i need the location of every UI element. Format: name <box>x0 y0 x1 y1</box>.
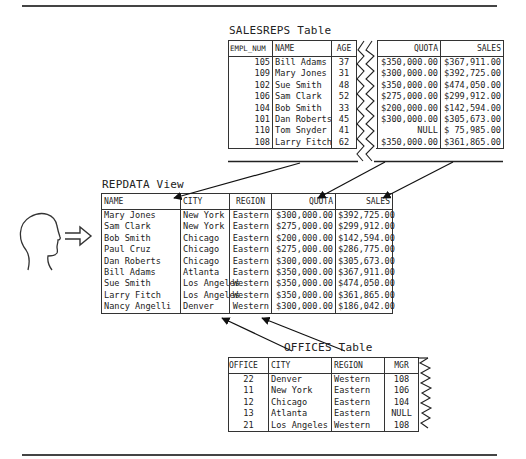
city-cell: Los Angeles <box>181 278 230 289</box>
quota-cell: $350,000.00 <box>378 57 441 69</box>
double-line-arrow-icon <box>65 227 91 245</box>
sales-cell: $392,725.00 <box>441 68 504 79</box>
table-row: 102Sue Smith48$350,000.00$474,050.00 <box>229 80 504 91</box>
office-cell: 12 <box>229 397 269 408</box>
sales-cell: $ 75,985.00 <box>441 125 504 136</box>
name-cell: Tom Snyder <box>273 125 332 136</box>
sales-cell: $286,775.00 <box>336 244 393 255</box>
age-cell: 52 <box>332 91 357 102</box>
region-cell: Eastern <box>230 256 272 267</box>
offices-title: OFFICES Table <box>284 341 373 354</box>
region-cell: Eastern <box>230 267 272 278</box>
quota-cell: $275,000.00 <box>272 244 336 255</box>
mgr-cell: 108 <box>385 420 419 432</box>
city-cell: Chicago <box>181 233 230 244</box>
age-cell: 37 <box>332 57 357 69</box>
city-cell: Chicago <box>181 256 230 267</box>
city-cell: Atlanta <box>269 408 332 419</box>
mgr-cell: 104 <box>385 397 419 408</box>
region-cell: Western <box>332 374 385 386</box>
empl-num-cell: 110 <box>229 125 273 136</box>
empl-num-cell: 102 <box>229 80 273 91</box>
region-cell: Eastern <box>230 210 272 222</box>
table-row: 108Larry Fitch62$350,000.00$361,865.00 <box>229 137 504 149</box>
column-header-sales: SALES <box>336 194 393 210</box>
city-cell: Los Angeles <box>181 290 230 301</box>
quota-cell: $350,000.00 <box>378 137 441 149</box>
column-header-mgr: MGR <box>385 358 419 374</box>
quota-cell: $300,000.00 <box>272 301 336 313</box>
quota-cell: $275,000.00 <box>378 91 441 102</box>
empl-num-cell: 101 <box>229 114 273 125</box>
region-cell: Eastern <box>332 408 385 419</box>
offices-header-row: OFFICE CITY REGION MGR <box>229 358 419 374</box>
column-break <box>357 114 378 125</box>
table-row: 106Sam Clark52$275,000.00$299,912.00 <box>229 91 504 102</box>
quota-cell: $300,000.00 <box>272 210 336 222</box>
person-head-icon <box>20 214 60 270</box>
city-cell: Chicago <box>269 397 332 408</box>
quota-cell: $350,000.00 <box>272 278 336 289</box>
column-break <box>357 125 378 136</box>
name-cell: Mary Jones <box>102 210 181 222</box>
name-cell: Dan Roberts <box>273 114 332 125</box>
column-header-name: NAME <box>102 194 181 210</box>
repdata-header-row: NAME CITY REGION QUOTA SALES <box>102 194 393 210</box>
sales-cell: $361,865.00 <box>441 137 504 149</box>
city-cell: Los Angeles <box>269 420 332 432</box>
name-cell: Paul Cruz <box>102 244 181 255</box>
table-row: Bill AdamsAtlantaEastern$350,000.00$367,… <box>102 267 393 278</box>
name-cell: Sue Smith <box>102 278 181 289</box>
mgr-cell: NULL <box>385 408 419 419</box>
empl-num-cell: 105 <box>229 57 273 69</box>
age-cell: 45 <box>332 114 357 125</box>
region-cell: Eastern <box>230 233 272 244</box>
column-break <box>357 91 378 102</box>
sales-cell: $305,673.00 <box>441 114 504 125</box>
name-cell: Larry Fitch <box>102 290 181 301</box>
name-cell: Mary Jones <box>273 68 332 79</box>
top-rule <box>22 5 497 7</box>
repdata-title: REPDATA View <box>102 178 184 191</box>
repdata-view-table: NAME CITY REGION QUOTA SALES Mary JonesN… <box>101 193 393 314</box>
quota-cell: $300,000.00 <box>272 256 336 267</box>
mgr-cell: 106 <box>385 385 419 396</box>
sales-cell: $474,050.00 <box>336 278 393 289</box>
sales-cell: $474,050.00 <box>441 80 504 91</box>
sales-cell: $299,912.00 <box>336 221 393 232</box>
column-header-city: CITY <box>181 194 230 210</box>
name-cell: Bill Adams <box>102 267 181 278</box>
offices-table: OFFICE CITY REGION MGR 22DenverWestern10… <box>228 357 419 432</box>
column-header-empl-num: EMPL_NUM <box>229 41 273 57</box>
name-cell: Bob Smith <box>102 233 181 244</box>
table-row: Larry FitchLos AngelesWestern$350,000.00… <box>102 290 393 301</box>
name-cell: Nancy Angelli <box>102 301 181 313</box>
column-header-age: AGE <box>332 41 357 57</box>
column-header-city: CITY <box>269 358 332 374</box>
table-row: 104Bob Smith33$200,000.00$142,594.00 <box>229 103 504 114</box>
column-header-quota: QUOTA <box>272 194 336 210</box>
quota-cell: $350,000.00 <box>272 267 336 278</box>
salesreps-header-row: EMPL_NUM NAME AGE QUOTA SALES <box>229 41 504 57</box>
column-break <box>357 68 378 79</box>
column-break <box>357 137 378 149</box>
table-row: 101Dan Roberts45$300,000.00$305,673.00 <box>229 114 504 125</box>
quota-cell: NULL <box>378 125 441 136</box>
sales-cell: $367,911.00 <box>441 57 504 69</box>
quota-cell: $350,000.00 <box>378 80 441 91</box>
name-cell: Dan Roberts <box>102 256 181 267</box>
quota-cell: $200,000.00 <box>378 103 441 114</box>
table-row: 105Bill Adams37$350,000.00$367,911.00 <box>229 57 504 69</box>
sales-cell: $142,594.00 <box>441 103 504 114</box>
region-cell: Eastern <box>230 244 272 255</box>
office-cell: 11 <box>229 385 269 396</box>
table-row: Sam ClarkNew YorkEastern$275,000.00$299,… <box>102 221 393 232</box>
name-cell: Bob Smith <box>273 103 332 114</box>
office-cell: 21 <box>229 420 269 432</box>
column-header-region: REGION <box>332 358 385 374</box>
city-cell: New York <box>181 210 230 222</box>
region-cell: Western <box>230 278 272 289</box>
salesreps-title: SALESREPS Table <box>229 24 331 37</box>
age-cell: 62 <box>332 137 357 149</box>
region-cell: Western <box>230 290 272 301</box>
